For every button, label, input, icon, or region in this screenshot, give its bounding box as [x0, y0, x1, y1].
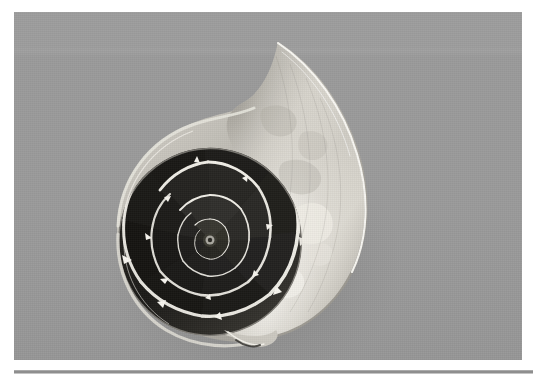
rule-bottom-line: [14, 373, 533, 374]
nautilus-shell-svg: [14, 12, 522, 360]
shell-artwork: [14, 12, 522, 360]
page-root: [0, 0, 536, 381]
photograph: [14, 12, 522, 360]
horizontal-rule: [14, 370, 533, 374]
